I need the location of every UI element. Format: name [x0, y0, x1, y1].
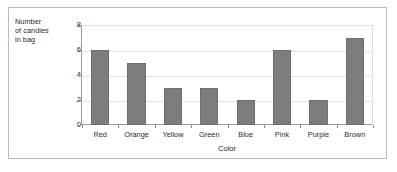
bar-purple	[309, 100, 327, 125]
bar-brown	[346, 38, 364, 126]
x-axis-tick-label: Orange	[118, 130, 154, 139]
y-axis-tick	[78, 100, 81, 101]
bar-blue	[237, 100, 255, 125]
bar-orange	[127, 63, 145, 126]
bar-green	[200, 88, 218, 126]
bars-layer	[82, 25, 373, 125]
x-axis-tick	[118, 125, 119, 128]
x-axis-title: Color	[81, 144, 373, 153]
x-axis-tick-label: Brown	[337, 130, 373, 139]
y-axis-tick	[78, 25, 81, 26]
x-axis-tick	[337, 125, 338, 128]
x-axis-tick-label: Blue	[228, 130, 264, 139]
x-axis-tick-label: Yellow	[155, 130, 191, 139]
x-axis-tick-label: Green	[191, 130, 227, 139]
x-axis-tick	[155, 125, 156, 128]
y-axis-tick-labels: 02468	[63, 8, 81, 172]
x-axis-tick-label: Pink	[264, 130, 300, 139]
chart-frame: Number of candies in bag 02468 RedOrange…	[8, 7, 387, 159]
bar-red	[91, 50, 109, 125]
x-axis-tick-label: Purple	[300, 130, 336, 139]
x-axis-tick	[300, 125, 301, 128]
x-axis-tick	[373, 125, 374, 128]
bar-yellow	[164, 88, 182, 126]
x-axis-tick-label: Red	[82, 130, 118, 139]
y-axis-tick	[78, 50, 81, 51]
bar-pink	[273, 50, 291, 125]
y-axis-tick	[78, 125, 81, 126]
x-axis-tick	[264, 125, 265, 128]
x-axis-tick	[228, 125, 229, 128]
x-axis-tick	[191, 125, 192, 128]
x-axis-tick	[82, 125, 83, 128]
y-axis-tick	[78, 75, 81, 76]
